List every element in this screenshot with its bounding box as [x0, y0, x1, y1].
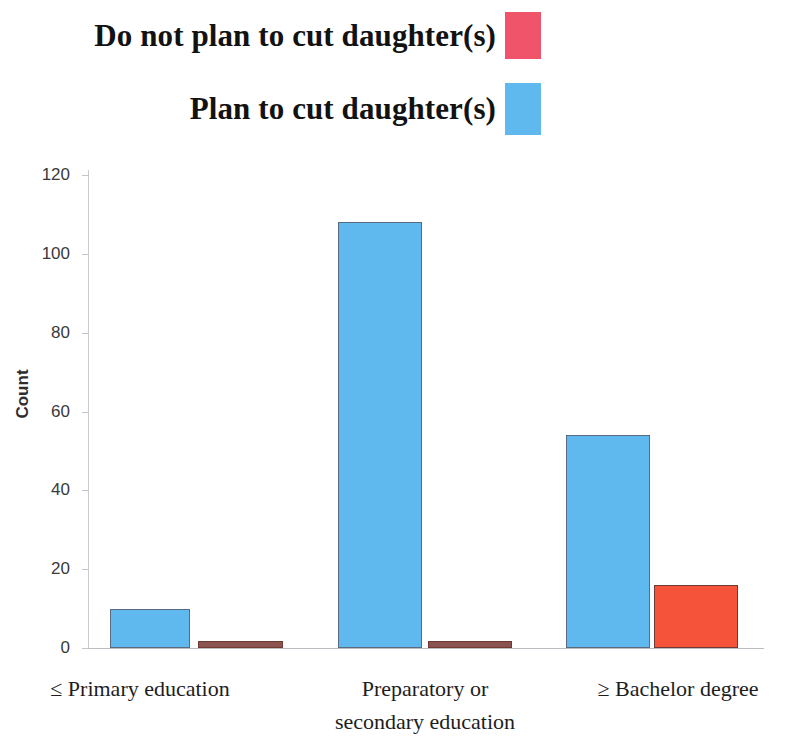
- y-tick-mark: [82, 569, 89, 570]
- x-axis-line: [88, 648, 764, 649]
- y-tick-mark: [82, 412, 89, 413]
- bar-plan-to-cut-2: [566, 435, 650, 648]
- y-tick-mark: [82, 175, 89, 176]
- y-axis-line: [88, 170, 89, 648]
- y-tick-label: 20: [12, 560, 70, 577]
- bar-do-not-plan-to-cut-1: [428, 641, 512, 648]
- bar-do-not-plan-to-cut-0: [198, 641, 283, 648]
- bar-do-not-plan-to-cut-2: [654, 585, 738, 648]
- x-tick-label-secondary-line1: Preparatory or: [280, 672, 570, 705]
- y-tick-mark: [82, 254, 89, 255]
- x-tick-label-primary: ≤ Primary education: [0, 672, 280, 705]
- bar-plan-to-cut-0: [110, 609, 190, 648]
- y-tick-mark: [82, 490, 89, 491]
- y-tick-mark: [82, 333, 89, 334]
- x-axis-tick-labels: ≤ Primary education Preparatory or secon…: [0, 672, 786, 750]
- bar-chart: Do not plan to cut daughter(s) Plan to c…: [0, 0, 786, 750]
- x-tick-label-secondary: Preparatory or secondary education: [280, 672, 570, 738]
- bar-plan-to-cut-1: [338, 222, 422, 648]
- x-tick-label-primary-line1: ≤ Primary education: [0, 672, 280, 705]
- x-tick-label-bachelor-line1: ≥ Bachelor degree: [570, 672, 786, 705]
- y-tick-label: 60: [12, 403, 70, 420]
- x-tick-label-bachelor: ≥ Bachelor degree: [570, 672, 786, 705]
- y-tick-label: 100: [12, 245, 70, 262]
- y-tick-label: 80: [12, 324, 70, 341]
- y-tick-label: 40: [12, 481, 70, 498]
- x-tick-label-secondary-line2: secondary education: [280, 705, 570, 738]
- y-tick-mark: [82, 648, 89, 649]
- plot-area: Count 120100806040200 ≤ Primary educatio…: [0, 0, 786, 750]
- y-tick-label: 120: [12, 166, 70, 183]
- y-tick-label: 0: [12, 639, 70, 656]
- y-axis-title: Count: [13, 349, 33, 439]
